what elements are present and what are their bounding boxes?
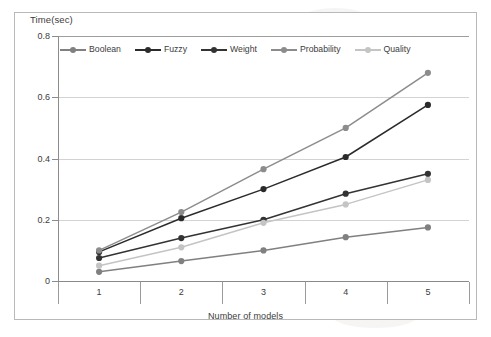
legend-label: Fuzzy xyxy=(164,45,187,54)
legend-item-boolean[interactable]: Boolean xyxy=(60,45,121,54)
y-axis-tick-label: 0.8 xyxy=(10,31,50,41)
x-axis-tick-label-3: 3 xyxy=(244,287,284,297)
legend-marker-icon xyxy=(201,45,227,54)
legend-label: Weight xyxy=(230,45,257,54)
x-axis-tick-label-2: 2 xyxy=(161,287,201,297)
legend-marker-icon xyxy=(135,45,161,54)
y-axis-tick-label: 0 xyxy=(10,276,50,286)
legend-label: Boolean xyxy=(89,45,121,54)
legend-item-weight[interactable]: Weight xyxy=(201,45,257,54)
y-axis-tick-label: 0.2 xyxy=(10,215,50,225)
x-axis-separator xyxy=(305,282,306,304)
legend-label: Quality xyxy=(384,45,411,54)
x-axis-separator xyxy=(387,282,388,304)
chart-plot-frame xyxy=(14,12,477,320)
x-axis-separator xyxy=(58,282,59,304)
x-axis-tick-label-1: 1 xyxy=(79,287,119,297)
y-axis-tick-mark xyxy=(52,97,59,98)
gridline-0.2 xyxy=(58,220,469,221)
x-axis-tick-label-5: 5 xyxy=(408,287,448,297)
legend-marker-icon xyxy=(271,45,297,54)
x-axis-tick-label-4: 4 xyxy=(326,287,366,297)
x-axis-title: Number of models xyxy=(0,311,491,321)
y-axis-tick-mark xyxy=(52,159,59,160)
y-axis-tick-label: 0.6 xyxy=(10,92,50,102)
x-axis-separator xyxy=(469,282,470,304)
x-axis-separator xyxy=(222,282,223,304)
chart-legend: BooleanFuzzyWeightProbabilityQuality xyxy=(60,45,411,54)
gridline-0.6 xyxy=(58,97,469,98)
y-axis-tick-mark xyxy=(52,36,59,37)
chart-root: Time(sec) 00.20.40.60.8 12345 Number of … xyxy=(0,0,491,337)
y-axis-tick-mark xyxy=(52,220,59,221)
legend-marker-icon xyxy=(60,45,86,54)
legend-item-probability[interactable]: Probability xyxy=(271,45,341,54)
legend-item-fuzzy[interactable]: Fuzzy xyxy=(135,45,187,54)
y-axis-tick-label: 0.4 xyxy=(10,154,50,164)
x-axis-separator xyxy=(140,282,141,304)
legend-label: Probability xyxy=(300,45,341,54)
y-axis-title: Time(sec) xyxy=(30,14,73,25)
legend-item-quality[interactable]: Quality xyxy=(355,45,411,54)
legend-marker-icon xyxy=(355,45,381,54)
gridline-0.4 xyxy=(58,159,469,160)
gridline-0.8 xyxy=(58,36,469,37)
x-axis-line xyxy=(58,281,469,282)
